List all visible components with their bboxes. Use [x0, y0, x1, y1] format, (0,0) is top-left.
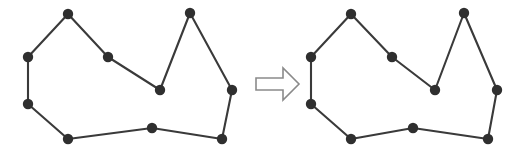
simple-polygon-group [306, 8, 502, 144]
figure-root: Self-intersecting polygon transformed in… [0, 0, 526, 162]
polygon-vertex [306, 99, 316, 109]
polygon-vertex [63, 9, 73, 19]
polygon-vertex [346, 134, 356, 144]
transformation-arrow-group [256, 68, 299, 100]
transformation-arrow-icon [256, 68, 299, 100]
polygon-vertex [483, 134, 493, 144]
polygon-vertex [492, 85, 502, 95]
polygon-vertex [23, 99, 33, 109]
polygon-vertex [430, 85, 440, 95]
polygon-transformation-diagram [0, 0, 526, 162]
polygon-vertex [155, 85, 165, 95]
simple-polygon-outline [311, 13, 497, 139]
polygon-vertex [387, 52, 397, 62]
polygon-vertex [23, 52, 33, 62]
polygon-vertex [103, 52, 113, 62]
polygon-vertex [185, 8, 195, 18]
polygon-vertex [408, 123, 418, 133]
polygon-vertex [147, 123, 157, 133]
simple-polygon-vertices [306, 8, 502, 144]
polygon-vertex [306, 52, 316, 62]
polygon-vertex [217, 134, 227, 144]
polygon-vertex [459, 8, 469, 18]
self-intersecting-polygon-group [23, 8, 237, 144]
polygon-vertex [227, 85, 237, 95]
polygon-vertex [346, 9, 356, 19]
self-intersecting-polygon-outline [28, 13, 232, 139]
polygon-vertex [63, 134, 73, 144]
